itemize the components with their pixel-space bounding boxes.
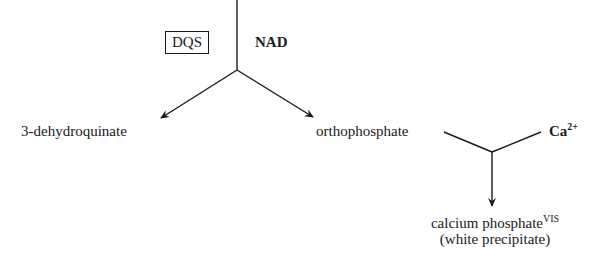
arrow-to-orthophosphate: [237, 70, 313, 117]
phosphate-arm: [444, 132, 492, 152]
calcium-charge: 2+: [567, 121, 578, 132]
arrow-to-dehydroquinate: [161, 70, 237, 118]
calcium-symbol: Ca: [549, 123, 567, 139]
final-product-note: (white precipitate): [410, 232, 580, 247]
product-right-label: orthophosphate: [316, 124, 408, 139]
final-product-label: calcium phosphateVIS: [410, 216, 580, 231]
final-product-superscript: VIS: [543, 213, 559, 224]
calcium-ion-label: Ca2+: [549, 124, 578, 139]
cofactor-label: NAD: [255, 35, 288, 50]
product-left-label: 3-dehydroquinate: [21, 124, 127, 139]
enzyme-box-dqs: DQS: [165, 31, 209, 54]
final-product-name: calcium phosphate: [431, 215, 543, 231]
calcium-arm: [492, 132, 541, 152]
